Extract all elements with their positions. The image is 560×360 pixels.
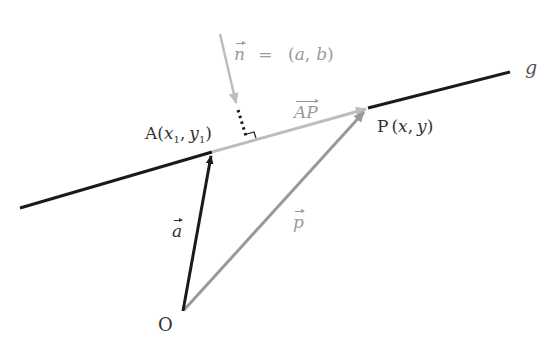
normal-open-paren: ( (288, 44, 295, 64)
vector-a-arrow (183, 156, 211, 311)
line-g-right (368, 72, 510, 108)
normal-dotted-line (238, 110, 246, 136)
point-P-close-paren: ) (427, 116, 434, 136)
line-g-label: g (525, 58, 537, 77)
vector-AP-arrow (212, 109, 366, 152)
vector-p-symbol: p (293, 214, 304, 231)
vector-AP-label: AP (294, 104, 318, 121)
normal-component-b: b (316, 44, 327, 64)
vector-AP-symbol: AP (294, 104, 318, 121)
normal-close-paren: ) (327, 44, 334, 64)
line-g-left (20, 152, 212, 208)
point-P-label: P(x,y) (377, 118, 433, 135)
vector-a-symbol: a (172, 223, 182, 240)
vector-line-diagram: n = (a,b) AP A(x1,y1) P(x,y) g a p O (0, 0, 560, 360)
point-A-x-sub: 1 (174, 134, 180, 145)
normal-vector-symbol: n (234, 46, 245, 63)
point-A-y: y (189, 123, 199, 143)
point-A-label: A(x1,y1) (145, 125, 212, 145)
normal-component-a: a (295, 44, 305, 64)
right-angle-marker (247, 132, 256, 138)
point-P-y: y (417, 116, 427, 136)
point-A-close-paren: ) (205, 123, 212, 143)
point-P-x: x (398, 116, 408, 136)
point-P-name: P (377, 116, 388, 136)
point-A-open-paren: ( (157, 123, 164, 143)
normal-equals: = (258, 44, 272, 64)
normal-comma: , (305, 44, 310, 64)
point-A-comma: , (180, 123, 185, 143)
origin-label: O (158, 316, 173, 334)
vector-p-label: p (293, 214, 304, 231)
normal-vector-label: n = (a,b) (234, 46, 334, 63)
point-A-name: A (145, 123, 157, 143)
point-P-comma: , (408, 116, 413, 136)
vector-a-label: a (172, 223, 182, 240)
point-A-x: x (164, 123, 174, 143)
